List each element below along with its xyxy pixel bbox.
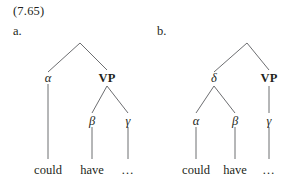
tree-b-branch-delta-to-beta [214,86,235,113]
tree-b-branch-root-to-delta [214,43,247,72]
tree-a-branch-root-to-alpha [48,43,80,72]
tree-b-leaf-ellipsis: … [262,163,276,177]
syntax-trees-canvas: α VP β γ could have … δ VP α β γ could h… [0,0,295,184]
tree-b-node-alpha: α [193,114,200,128]
tree-a: α VP β γ could have … [34,43,135,177]
tree-a-branch-vp-to-beta [92,86,107,113]
tree-a-branch-root-to-vp [80,43,107,70]
tree-b-node-vp: VP [260,71,277,85]
tree-a-branch-vp-to-gamma [107,86,128,113]
tree-b-branch-root-to-vp [247,43,269,70]
tree-b-node-delta: δ [211,71,217,85]
tree-a-node-gamma: γ [126,114,132,128]
tree-b-leaf-could: could [182,163,211,177]
tree-b-node-beta: β [231,114,239,128]
tree-b-node-gamma: γ [267,114,273,128]
tree-a-node-alpha: α [45,71,52,85]
tree-a-node-vp: VP [98,71,115,85]
tree-a-leaf-have: have [80,163,104,177]
tree-a-leaf-ellipsis: … [121,163,135,177]
tree-b-leaf-have: have [223,163,247,177]
tree-a-leaf-could: could [34,163,63,177]
tree-a-node-beta: β [88,114,96,128]
tree-b-branch-delta-to-alpha [196,86,214,113]
tree-b: δ VP α β γ could have … [182,43,278,177]
